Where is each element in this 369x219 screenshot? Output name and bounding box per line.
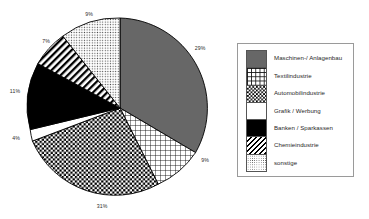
pie-label-automobilindustrie: 31% [97, 204, 108, 209]
legend-swatch-chemieindustrie [247, 137, 266, 154]
legend-item-textilindustrie: Textilindustrie [274, 67, 354, 84]
chart-legend: Maschinen-/ Anlagenbau Textilindustrie A… [237, 43, 354, 177]
pie-label-maschinen-anlagenbau: 29% [195, 46, 206, 51]
legend-item-chemieindustrie: Chemieindustrie [274, 137, 354, 154]
pie-chart-svg [0, 0, 232, 219]
legend-swatch-textilindustrie [247, 68, 266, 85]
legend-item-banken-sparkassen: Banken / Sparkassen [274, 120, 354, 137]
legend-item-sonstige: sonstige [274, 155, 354, 172]
legend-swatch-grafik-werbung [247, 103, 266, 120]
legend-swatch-maschinen-anlagenbau [247, 51, 266, 68]
legend-swatch-sonstige [247, 155, 266, 171]
legend-swatch-banken-sparkassen [247, 120, 266, 137]
pie-label-sonstige: 9% [85, 12, 93, 17]
pie-label-chemieindustrie: 7% [42, 39, 50, 44]
legend-item-automobilindustrie: Automobilindustrie [274, 85, 354, 102]
pie-label-grafik-werbung: 4% [12, 136, 20, 141]
legend-swatch-automobilindustrie [247, 86, 266, 103]
pie-label-banken-sparkassen: 11% [10, 89, 20, 94]
pie-label-textilindustrie: 9% [201, 158, 209, 163]
chart-canvas: 29% 9% 31% 4% 11% 7% 9% Maschinen-/ Anla… [0, 0, 369, 219]
legend-item-grafik-werbung: Grafik / Werbung [274, 102, 354, 119]
legend-label-column: Maschinen-/ Anlagenbau Textilindustrie A… [274, 50, 354, 172]
legend-swatch-column [246, 50, 267, 172]
pie-chart: 29% 9% 31% 4% 11% 7% 9% [0, 0, 232, 219]
pie-slices [27, 18, 207, 195]
legend-item-maschinen-anlagenbau: Maschinen-/ Anlagenbau [274, 50, 354, 67]
